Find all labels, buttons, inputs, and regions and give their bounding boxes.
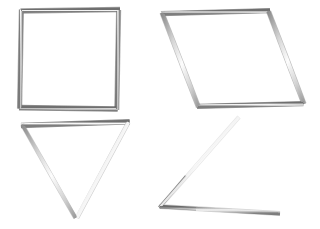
shapes-svg bbox=[0, 0, 320, 229]
scene-background bbox=[0, 0, 320, 229]
scene-canvas: Four geometric figures formed from thin … bbox=[0, 0, 320, 229]
square-frame-edge bbox=[22, 10, 119, 11]
